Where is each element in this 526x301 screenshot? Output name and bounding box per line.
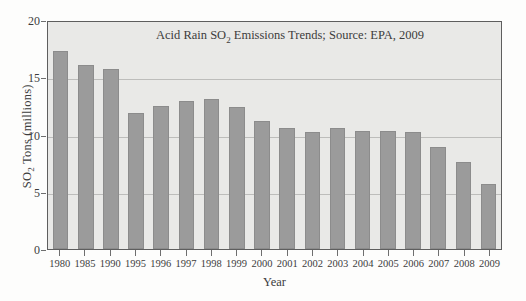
x-axis-tick-slot [477,250,502,256]
x-axis-tick-mark [211,250,212,256]
x-axis-tick-label: 1998 [199,257,224,273]
x-axis-tick-label: 1999 [224,257,249,273]
x-axis-title: Year [47,275,502,290]
bar[interactable] [78,65,94,249]
bar-slot [48,22,73,249]
bar-slot [224,22,249,249]
bar-slot [275,22,300,249]
x-axis-tick-mark [413,250,414,256]
x-axis-tick-label: 2009 [477,257,502,273]
x-axis-tick-mark [59,250,60,256]
bar[interactable] [305,132,321,249]
x-axis-tick-mark [261,250,262,256]
x-axis-tick-label: 2007 [426,257,451,273]
bar[interactable] [128,113,144,249]
x-axis-tick-slot [426,250,451,256]
bar[interactable] [380,131,396,249]
x-axis-tick-slot [47,250,72,256]
bar[interactable] [330,128,346,249]
bar-slot [98,22,123,249]
x-axis-tick-mark [363,250,364,256]
x-axis-tick-label: 2000 [249,257,274,273]
bar-slot [174,22,199,249]
y-axis-tick-mark [41,193,46,194]
bar[interactable] [279,128,295,249]
bar-slot [249,22,274,249]
x-axis-tick-mark [110,250,111,256]
bar[interactable] [179,101,195,249]
x-axis-tick-label: 2003 [325,257,350,273]
bar-slot [199,22,224,249]
x-axis-tick-slot [123,250,148,256]
bar[interactable] [229,107,245,249]
x-axis-ticks [47,250,502,256]
x-axis-tick-mark [160,250,161,256]
x-axis-tick-mark [236,250,237,256]
bar-slot [476,22,501,249]
x-axis-tick-label: 1980 [47,257,72,273]
x-axis-tick-slot [148,250,173,256]
x-axis-tick-mark [489,250,490,256]
x-axis-tick-slot [275,250,300,256]
bar[interactable] [254,121,270,249]
bar-slot [451,22,476,249]
bar-slot [300,22,325,249]
x-axis-tick-label: 1985 [72,257,97,273]
x-axis-tick-slot [350,250,375,256]
x-axis-tick-slot [173,250,198,256]
x-axis-tick-label: 2002 [300,257,325,273]
x-axis-tick-label: 1997 [173,257,198,273]
bar[interactable] [456,162,472,249]
bar[interactable] [103,69,119,249]
y-axis-tick-mark [41,136,46,137]
bar-slot [73,22,98,249]
chart-title: Acid Rain SO2 Emissions Trends; Source: … [90,28,490,45]
x-axis-tick-slot [325,250,350,256]
x-axis-tick-mark [186,250,187,256]
x-axis-tick-slot [401,250,426,256]
bar[interactable] [481,184,497,249]
x-axis-tick-label: 2008 [452,257,477,273]
x-axis-tick-label: 2001 [275,257,300,273]
y-axis-tick-mark [41,250,46,251]
bar-slot [124,22,149,249]
x-axis-tick-slot [376,250,401,256]
y-axis-tick-label: 20 [14,15,40,27]
y-axis-tick-mark [41,21,46,22]
bar-slot [375,22,400,249]
x-axis-tick-label: 2006 [401,257,426,273]
chart-title-prefix: Acid Rain SO [156,28,226,42]
plot-area [47,21,502,250]
chart-figure: SO2 Tons (millions) 05101520 Acid Rain S… [0,0,526,301]
y-axis-tick-label: 5 [14,187,40,199]
y-axis-tick-labels: 05101520 [8,0,40,301]
x-axis-tick-label: 2004 [350,257,375,273]
x-axis-tick-label: 1996 [148,257,173,273]
y-axis-tick-label: 0 [14,244,40,256]
x-axis-tick-slot [224,250,249,256]
x-axis-tick-slot [72,250,97,256]
x-axis-tick-mark [84,250,85,256]
bar[interactable] [355,131,371,249]
bar-slot [325,22,350,249]
bar[interactable] [430,147,446,249]
x-axis-tick-mark [388,250,389,256]
x-axis-tick-labels: 1980198519901995199619971998199920002001… [47,257,502,273]
x-axis-tick-mark [464,250,465,256]
x-axis-tick-mark [312,250,313,256]
x-axis-tick-label: 2005 [376,257,401,273]
bar-slot [426,22,451,249]
bar-series [48,22,501,249]
chart-title-suffix: Emissions Trends; Source: EPA, 2009 [231,28,424,42]
bar-slot [350,22,375,249]
x-axis-tick-slot [98,250,123,256]
x-axis-tick-mark [337,250,338,256]
x-axis-tick-mark [135,250,136,256]
bar[interactable] [53,51,69,249]
bar[interactable] [204,99,220,249]
x-axis-tick-slot [249,250,274,256]
bar-slot [149,22,174,249]
bar[interactable] [405,132,421,249]
bar[interactable] [153,106,169,249]
x-axis-tick-label: 1995 [123,257,148,273]
